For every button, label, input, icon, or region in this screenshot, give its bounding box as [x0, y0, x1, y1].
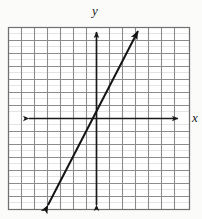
coordinate-plane-svg — [0, 0, 202, 219]
y-axis-label: y — [92, 4, 98, 17]
graph-figure: y x — [0, 0, 202, 219]
x-axis-label: x — [192, 111, 198, 124]
